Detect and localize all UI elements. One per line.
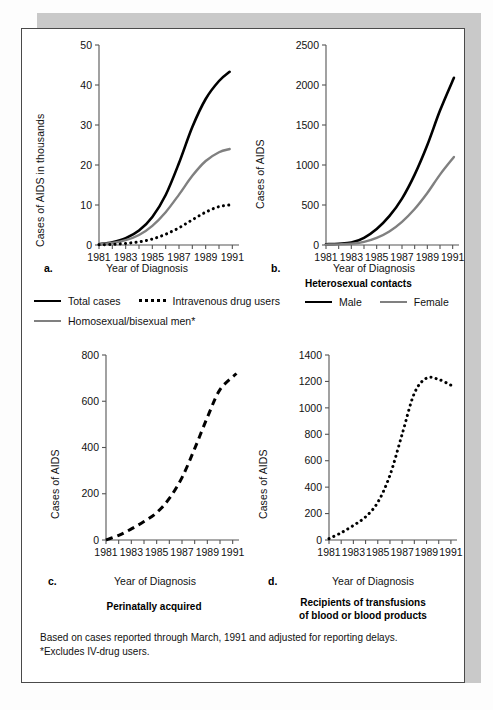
- svg-text:800: 800: [304, 428, 322, 440]
- svg-text:1989: 1989: [196, 546, 220, 558]
- panel-c-xtitle: Year of Diagnosis: [70, 575, 240, 587]
- panel-a-xtitle: Year of Diagnosis: [62, 262, 232, 274]
- legend-swatch-female: [380, 301, 407, 303]
- svg-text:600: 600: [304, 454, 322, 466]
- panel-d-xtitle: Year of Diagnosis: [288, 575, 458, 587]
- svg-text:1989: 1989: [415, 546, 439, 558]
- svg-text:1991: 1991: [221, 546, 245, 558]
- panel-d-ylabel: Cases of AIDS: [257, 449, 269, 519]
- svg-text:1000: 1000: [299, 402, 323, 414]
- svg-text:1983: 1983: [120, 546, 144, 558]
- svg-text:50: 50: [80, 39, 92, 51]
- hetero-legend: Male Female: [305, 294, 449, 309]
- svg-text:1985: 1985: [145, 546, 169, 558]
- panel-d-label: d.: [268, 575, 277, 587]
- svg-text:500: 500: [301, 199, 319, 211]
- panel-a-plot: 01020304050198119831985198719891991: [44, 37, 244, 287]
- svg-text:1000: 1000: [296, 159, 320, 171]
- svg-text:30: 30: [80, 119, 92, 131]
- svg-text:0: 0: [316, 534, 322, 546]
- svg-text:40: 40: [80, 79, 92, 91]
- legend-swatch-homosexual-bisexual-men: [34, 320, 61, 322]
- panel-b-ylabel: Cases of AIDS: [254, 139, 266, 209]
- page-shadow-top: [37, 13, 477, 29]
- svg-text:1987: 1987: [170, 546, 194, 558]
- hetero-legend-title: Heterosexual contacts: [305, 278, 412, 289]
- panel-c-label: c.: [48, 575, 57, 587]
- svg-text:200: 200: [304, 507, 322, 519]
- legend-swatch-iv-drug-users: [139, 299, 166, 302]
- page-shadow-right: [465, 13, 481, 683]
- svg-text:20: 20: [80, 159, 92, 171]
- svg-text:10: 10: [80, 199, 92, 211]
- panel-d: Cases of AIDS 02004006008001000120014001…: [244, 329, 466, 619]
- svg-text:2500: 2500: [296, 39, 320, 51]
- panel-a-label: a.: [44, 262, 53, 274]
- svg-text:400: 400: [304, 481, 322, 493]
- svg-text:800: 800: [81, 349, 99, 361]
- legend-label-iv-drug-users: Intravenous drug users: [173, 295, 280, 307]
- panel-d-plot: 0200400600800100012001400198119831985198…: [277, 343, 462, 578]
- panel-a: Cases of AIDS in thousands 0102030405019…: [22, 29, 244, 289]
- figure-page: Cases of AIDS in thousands 0102030405019…: [21, 28, 465, 683]
- legend-row-hetero: Male Female: [305, 294, 449, 309]
- legend-swatch-total-cases: [34, 300, 61, 302]
- svg-text:0: 0: [93, 534, 99, 546]
- svg-text:1500: 1500: [296, 119, 320, 131]
- footnote-line-1: Based on cases reported through March, 1…: [40, 631, 397, 645]
- svg-text:1200: 1200: [299, 375, 323, 387]
- panel-c-caption: Perinatally acquired: [64, 601, 244, 614]
- svg-text:1981: 1981: [94, 546, 118, 558]
- legend-row-2: Homosexual/bisexual men*: [34, 313, 280, 328]
- panel-b-plot: 0500100015002000250019811983198519871989…: [276, 37, 466, 287]
- svg-text:0: 0: [313, 239, 319, 251]
- legend-label-female: Female: [414, 296, 449, 308]
- svg-text:400: 400: [81, 441, 99, 453]
- panel-b-label: b.: [271, 262, 280, 274]
- svg-text:200: 200: [81, 487, 99, 499]
- svg-text:1991: 1991: [439, 546, 463, 558]
- panel-b-xtitle: Year of Diagnosis: [289, 262, 459, 274]
- legend-label-homosexual-bisexual-men: Homosexual/bisexual men*: [68, 315, 195, 327]
- panel-b: Cases of AIDS 05001000150020002500198119…: [244, 29, 466, 289]
- svg-text:1400: 1400: [299, 349, 323, 361]
- panel-c: Cases of AIDS 02004006008001981198319851…: [22, 329, 244, 619]
- footnote-line-2: *Excludes IV-drug users.: [40, 645, 150, 659]
- svg-text:0: 0: [86, 239, 92, 251]
- main-legend: Total cases Intravenous drug users Homos…: [34, 293, 280, 328]
- panel-d-caption-line1: Recipients of transfusions: [268, 597, 458, 610]
- svg-text:1985: 1985: [366, 546, 390, 558]
- panel-d-caption-line2: of blood or blood products: [268, 610, 458, 623]
- svg-text:1983: 1983: [342, 546, 366, 558]
- legend-label-total-cases: Total cases: [68, 295, 121, 307]
- svg-text:600: 600: [81, 395, 99, 407]
- legend-label-male: Male: [339, 296, 362, 308]
- legend-row-1: Total cases Intravenous drug users: [34, 293, 280, 308]
- panel-c-plot: 0200400600800198119831985198719891991: [59, 343, 244, 578]
- svg-text:1987: 1987: [390, 546, 414, 558]
- legend-swatch-male: [305, 301, 332, 303]
- svg-text:1981: 1981: [317, 546, 341, 558]
- svg-text:2000: 2000: [296, 79, 320, 91]
